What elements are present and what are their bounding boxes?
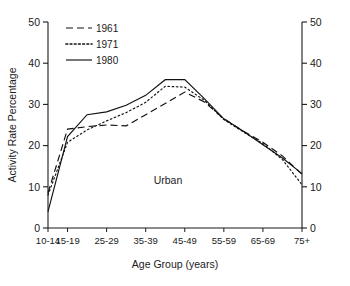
x-tick-label: 75+ (294, 235, 311, 246)
y-tick-label-right: 30 (310, 98, 322, 110)
y-tick-label-right: 50 (310, 16, 322, 28)
legend-label-1980: 1980 (96, 55, 119, 66)
x-tick-label: 25-29 (94, 235, 118, 246)
x-tick-label: 35-39 (134, 235, 158, 246)
y-tick-label-right: 20 (310, 139, 322, 151)
y-tick-label-left: 50 (28, 16, 40, 28)
x-tick-label: 55-59 (212, 235, 236, 246)
y-tick-label-left: 40 (28, 57, 40, 69)
plot-annotation-urban: Urban (154, 174, 183, 186)
y-tick-label-right: 40 (310, 57, 322, 69)
y-tick-label-left: 10 (28, 181, 40, 193)
y-tick-label-left: 20 (28, 139, 40, 151)
legend-label-1971: 1971 (96, 39, 119, 50)
x-tick-label: 65-69 (251, 235, 275, 246)
y-tick-label-left: 0 (34, 222, 40, 234)
series-line-1980 (48, 80, 302, 212)
chart-figure: 010203040500102030405010-1415-1925-2935-… (0, 0, 350, 286)
y-tick-label-left: 30 (28, 98, 40, 110)
activity-rate-line-chart: 010203040500102030405010-1415-1925-2935-… (0, 0, 350, 286)
x-axis-title: Age Group (years) (132, 258, 218, 270)
x-tick-label: 45-49 (173, 235, 197, 246)
y-tick-label-right: 0 (310, 222, 316, 234)
y-axis-title: Activity Rate Percentage (6, 67, 18, 182)
legend-label-1961: 1961 (96, 23, 119, 34)
x-tick-label: 15-19 (55, 235, 79, 246)
y-tick-label-right: 10 (310, 181, 322, 193)
